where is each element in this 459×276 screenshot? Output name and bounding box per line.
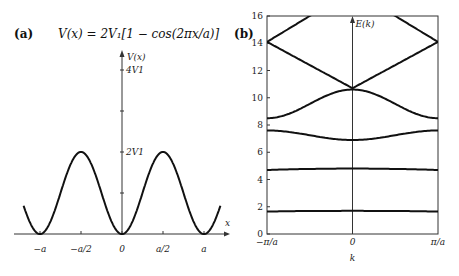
energy-band-1 bbox=[267, 211, 438, 212]
y-axis-label: V(x) bbox=[127, 52, 146, 62]
k-tick-label: −π/a bbox=[256, 237, 278, 247]
y-tick-label: 6 bbox=[257, 147, 263, 157]
panel-a-label: (a) bbox=[14, 27, 33, 41]
y-tick-label: 4V1 bbox=[125, 65, 144, 75]
y-tick-label: 2V1 bbox=[125, 147, 144, 157]
y-tick-label: 8 bbox=[257, 120, 263, 130]
x-tick-label: a bbox=[201, 244, 206, 254]
x-tick-label: a/2 bbox=[156, 244, 170, 254]
k-tick-label: π/a bbox=[430, 237, 445, 247]
e-axis-label: E(k) bbox=[355, 19, 376, 29]
k-axis-label: k bbox=[350, 253, 355, 263]
y-axis-arrow-icon bbox=[120, 50, 125, 57]
y-tick-label: 2 bbox=[257, 202, 263, 212]
equation-label: V(x) = 2V₁[1 − cos(2πx/a)] bbox=[58, 27, 220, 41]
e-axis-arrow-icon bbox=[350, 16, 355, 23]
k-tick-label: 0 bbox=[350, 237, 356, 247]
y-tick-label: 10 bbox=[252, 93, 264, 103]
x-axis-arrow-icon bbox=[224, 232, 230, 237]
x-axis-label: x bbox=[225, 218, 230, 228]
y-tick-label: 4 bbox=[257, 175, 263, 185]
y-tick-label: 14 bbox=[252, 38, 264, 48]
x-tick-label: −a/2 bbox=[70, 244, 92, 254]
x-tick-label: −a bbox=[34, 244, 47, 254]
chart-canvas: (a)V(x) = 2V₁[1 − cos(2πx/a)]V(x)x−a−a/2… bbox=[0, 0, 459, 276]
y-tick-label: 12 bbox=[252, 66, 263, 76]
y-tick-label: 16 bbox=[252, 11, 264, 21]
x-tick-label: 0 bbox=[119, 244, 125, 254]
